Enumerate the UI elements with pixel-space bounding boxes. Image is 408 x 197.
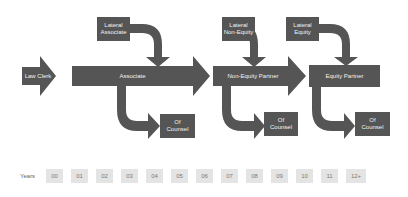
- year-box: 08: [246, 169, 263, 183]
- lateral-non-equity-line1: Lateral: [229, 22, 247, 29]
- exit-2-line1: Of: [278, 117, 284, 124]
- exit-3-line1: Of: [369, 117, 375, 124]
- year-box: 05: [171, 169, 188, 183]
- lateral-label-associate: Lateral Associate: [97, 17, 130, 41]
- stage-label-equity-partner: Equity Partner: [309, 69, 380, 83]
- year-box: 10: [296, 169, 313, 183]
- year-box: 00: [46, 169, 63, 183]
- year-box: 09: [271, 169, 288, 183]
- year-box: 02: [96, 169, 113, 183]
- exit-label-2: Of Counsel: [264, 112, 298, 136]
- year-box: 04: [146, 169, 163, 183]
- exit-1-line2: Counsel: [166, 126, 188, 133]
- year-box: 06: [196, 169, 213, 183]
- exit-non-equity-curve: [222, 86, 265, 139]
- lateral-equity-line1: Lateral: [293, 22, 311, 29]
- lateral-associate-line2: Associate: [100, 29, 126, 36]
- exit-2-line2: Counsel: [270, 124, 292, 131]
- year-box: 07: [221, 169, 238, 183]
- diagram-shapes: [0, 0, 408, 197]
- lateral-equity-line2: Equity: [294, 29, 311, 36]
- lateral-equity-curve: [319, 24, 358, 66]
- years-label: Years: [20, 173, 35, 179]
- year-box: 01: [71, 169, 88, 183]
- career-path-diagram: Law Clerk Associate Non-Equity Partner E…: [0, 0, 408, 197]
- lateral-non-equity-line2: Non-Equity: [224, 29, 254, 36]
- lateral-associate-line1: Lateral: [104, 22, 122, 29]
- stage-label-non-equity-partner: Non-Equity Partner: [213, 69, 293, 83]
- exit-1-line1: Of: [174, 119, 180, 126]
- lateral-associate-curve: [130, 24, 170, 67]
- exit-label-3: Of Counsel: [355, 112, 390, 136]
- exit-equity-curve: [312, 86, 355, 139]
- lateral-label-non-equity: Lateral Non-Equity: [222, 17, 255, 41]
- year-box: 12+: [346, 169, 366, 183]
- year-box: 03: [121, 169, 138, 183]
- exit-label-1: Of Counsel: [160, 114, 195, 138]
- year-box: 11: [321, 169, 338, 183]
- stage-label-associate: Associate: [72, 69, 193, 83]
- lateral-label-equity: Lateral Equity: [286, 17, 319, 41]
- exit-associate-curve: [117, 86, 160, 139]
- stage-label-law-clerk: Law Clerk: [22, 69, 54, 83]
- exit-3-line2: Counsel: [361, 124, 383, 131]
